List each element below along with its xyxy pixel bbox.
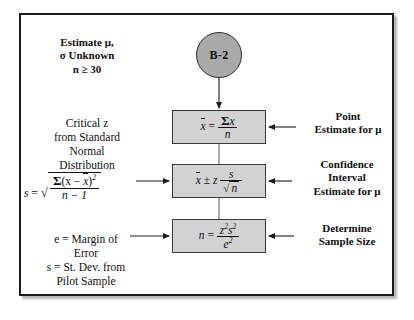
sqrt-expression: √ Σ(x − x)2 n − 1 (41, 172, 101, 201)
flowchart-figure: B-2 x = Σx n x ± z s √n n = z2s2 e2 (0, 0, 414, 320)
formula-box-mean[interactable]: x = Σx n (172, 110, 266, 144)
equals-sign: = (207, 229, 214, 241)
numerator: Σx (218, 114, 238, 128)
text-block-estimate: Estimate μ, σ Unknown n ≥ 30 (28, 36, 146, 76)
estimate-line-2: σ Unknown (28, 49, 146, 62)
numerator: z2s2 (217, 223, 239, 236)
denominator: n (218, 127, 238, 140)
node-b2-label: B-2 (210, 48, 229, 63)
formula-standard-deviation: s = √ Σ(x − x)2 n − 1 (24, 172, 154, 201)
text-block-margin-error: e = Margin of Error s = St. Dev. from Pi… (22, 232, 150, 288)
point-line-2: Estimate for μ (296, 123, 400, 136)
formula-box-confidence-interval[interactable]: x ± z s √n (172, 164, 266, 198)
denominator: e2 (217, 236, 239, 250)
confidence-line-1: Confidence (292, 158, 402, 171)
formula-confidence-interval: x ± z s √n (196, 168, 242, 195)
denominator: n − 1 (50, 188, 99, 201)
determine-line-2: Sample Size (294, 235, 400, 248)
margin-line-1: e = Margin of (22, 232, 150, 246)
estimate-line-3: n ≥ 30 (28, 63, 146, 76)
label-confidence-interval: Confidence Interval Estimate for μ (292, 158, 402, 198)
determine-line-1: Determine (294, 222, 400, 235)
z-symbol: z (213, 174, 217, 186)
confidence-line-2: Interval (292, 171, 402, 184)
n-symbol: n (199, 229, 205, 241)
critical-z-line-4: Distribution (24, 158, 150, 172)
label-determine-sample-size: Determine Sample Size (294, 222, 400, 249)
formula-box-sample-size[interactable]: n = z2s2 e2 (172, 219, 266, 253)
confidence-line-3: Estimate for μ (292, 185, 402, 198)
plus-minus-sign: ± (204, 174, 210, 186)
xbar-symbol: x (196, 174, 201, 186)
fraction-sum-x-over-n: Σx n (218, 114, 238, 141)
fraction-s-over-sqrt-n: s √n (220, 168, 242, 195)
margin-line-4: Pilot Sample (22, 274, 150, 288)
numerator: s (220, 168, 242, 180)
fraction-ss-over-n-minus-1: Σ(x − x)2 n − 1 (50, 174, 99, 201)
margin-line-3: s = St. Dev. from (22, 260, 150, 274)
formula-mean: x = Σx n (201, 114, 238, 141)
critical-z-line-3: Normal (24, 144, 150, 158)
fraction-z2s2-over-e2: z2s2 e2 (217, 223, 239, 250)
critical-z-line-1: Critical z (24, 116, 150, 130)
formula-sample-size: n = z2s2 e2 (199, 223, 239, 250)
xbar-symbol: x (201, 120, 206, 132)
equals-sign: = (31, 187, 38, 199)
point-line-1: Point (296, 110, 400, 123)
equals-sign: = (209, 120, 216, 132)
node-b2[interactable]: B-2 (196, 32, 242, 78)
s-symbol: s (24, 187, 28, 199)
margin-line-2: Error (22, 246, 150, 260)
text-block-critical-z: Critical z from Standard Normal Distribu… (24, 116, 150, 172)
estimate-line-1: Estimate μ, (28, 36, 146, 49)
denominator: √n (220, 180, 242, 195)
critical-z-line-2: from Standard (24, 130, 150, 144)
numerator: Σ(x − x)2 (50, 174, 99, 188)
label-point-estimate: Point Estimate for μ (296, 110, 400, 137)
